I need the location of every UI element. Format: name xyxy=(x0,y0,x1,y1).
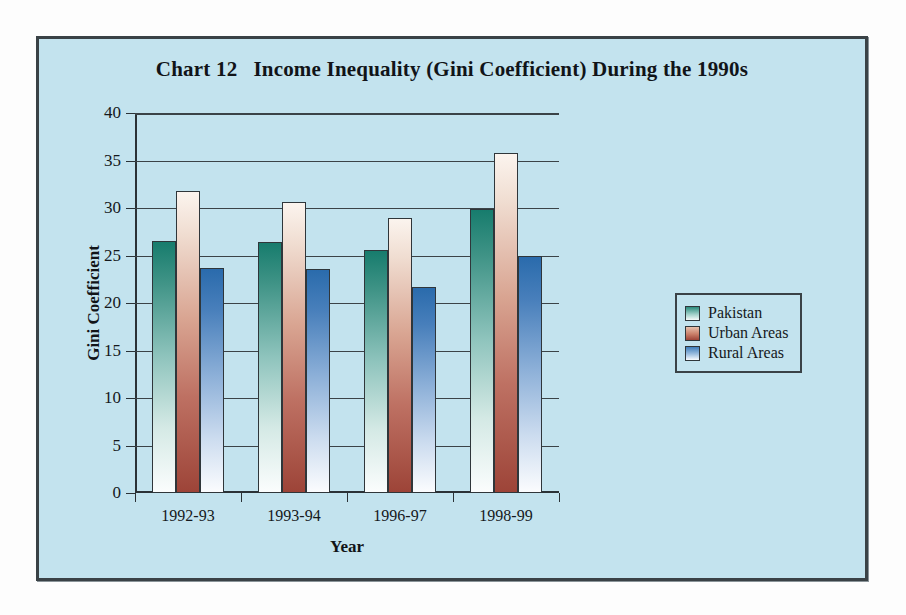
y-axis-tick-label: 0 xyxy=(113,483,122,503)
chart-figure-box: Chart 12Income Inequality (Gini Coeffici… xyxy=(36,36,868,581)
plot-area: 05101520253035401992-931993-941996-97199… xyxy=(135,113,559,493)
legend-item-rural-areas: Rural Areas xyxy=(685,344,788,362)
x-axis-tick xyxy=(241,493,242,502)
legend-item-urban-areas: Urban Areas xyxy=(685,324,788,342)
x-axis-title: Year xyxy=(135,537,559,557)
x-axis-tick-label: 1993-94 xyxy=(267,507,320,525)
legend-swatch-icon xyxy=(685,326,700,341)
legend-swatch-icon xyxy=(685,306,700,321)
bar-urban-1998-99 xyxy=(494,153,518,493)
y-axis-tick-label: 30 xyxy=(104,198,121,218)
bar-pakistan-1996-97 xyxy=(364,250,388,493)
y-axis-tick xyxy=(126,446,135,447)
legend-item-label: Pakistan xyxy=(708,304,762,322)
y-axis-tick-label: 35 xyxy=(104,151,121,171)
bar-urban-1992-93 xyxy=(176,191,200,493)
y-axis-tick xyxy=(126,208,135,209)
chart-title: Chart 12Income Inequality (Gini Coeffici… xyxy=(39,57,865,82)
x-axis-tick-label: 1998-99 xyxy=(479,507,532,525)
y-axis-tick-label: 40 xyxy=(104,103,121,123)
y-axis-tick xyxy=(126,161,135,162)
legend-item-label: Rural Areas xyxy=(708,344,784,362)
x-axis-tick xyxy=(135,493,136,502)
chart-legend: PakistanUrban AreasRural Areas xyxy=(675,293,802,373)
y-axis-tick-label: 15 xyxy=(104,341,121,361)
gridline xyxy=(135,113,559,115)
y-axis-tick xyxy=(126,351,135,352)
bar-urban-1996-97 xyxy=(388,218,412,493)
bar-rural-1998-99 xyxy=(518,256,542,493)
y-axis-tick-label: 5 xyxy=(113,436,122,456)
x-axis-tick xyxy=(347,493,348,502)
screenshot-canvas: Chart 12Income Inequality (Gini Coeffici… xyxy=(0,0,906,615)
y-axis-tick xyxy=(126,493,135,494)
legend-swatch-icon xyxy=(685,346,700,361)
y-axis-tick xyxy=(126,113,135,114)
y-axis-tick-label: 20 xyxy=(104,293,121,313)
y-axis-tick xyxy=(126,398,135,399)
y-axis-tick-label: 25 xyxy=(104,246,121,266)
x-axis-tick xyxy=(559,493,560,502)
bar-pakistan-1998-99 xyxy=(470,209,494,493)
bar-pakistan-1993-94 xyxy=(258,242,282,493)
x-axis-tick xyxy=(453,493,454,502)
y-axis-tick xyxy=(126,303,135,304)
bar-rural-1996-97 xyxy=(412,287,436,493)
y-axis-tick-label: 10 xyxy=(104,388,121,408)
bar-rural-1992-93 xyxy=(200,268,224,493)
chart-title-number: Chart 12 xyxy=(156,57,238,81)
legend-item-label: Urban Areas xyxy=(708,324,788,342)
bar-urban-1993-94 xyxy=(282,202,306,493)
legend-item-pakistan: Pakistan xyxy=(685,304,788,322)
bar-rural-1993-94 xyxy=(306,269,330,493)
y-axis-tick xyxy=(126,256,135,257)
x-axis-tick-label: 1996-97 xyxy=(373,507,426,525)
bar-pakistan-1992-93 xyxy=(152,241,176,493)
x-axis-tick-label: 1992-93 xyxy=(161,507,214,525)
chart-title-text: Income Inequality (Gini Coefficient) Dur… xyxy=(253,57,748,81)
